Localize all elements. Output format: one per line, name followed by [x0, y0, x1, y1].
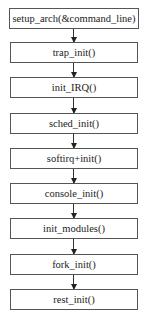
node-softirq-init: softirq+init()	[10, 148, 138, 169]
node-rest-init: rest_init()	[10, 289, 138, 310]
node-console-init: console_init()	[10, 183, 138, 204]
node-label: sched_init()	[49, 118, 99, 129]
node-label: console_init()	[45, 188, 103, 199]
node-label: trap_init()	[53, 47, 96, 58]
node-label: init_IRQ()	[52, 82, 96, 93]
arrow-down-icon	[73, 204, 74, 218]
node-trap-init: trap_init()	[10, 42, 138, 63]
node-label: setup_arch(&command_line)	[12, 13, 135, 24]
arrow-down-icon	[73, 134, 74, 148]
arrow-down-icon	[73, 169, 74, 183]
arrow-down-icon	[73, 275, 74, 289]
node-label: rest_init()	[53, 294, 94, 305]
node-init-modules: init_modules()	[10, 218, 138, 239]
node-setup-arch: setup_arch(&command_line)	[9, 8, 139, 29]
arrow-down-icon	[73, 98, 74, 113]
node-label: softirq+init()	[47, 153, 101, 164]
kernel-init-flowchart: setup_arch(&command_line) trap_init() in…	[0, 0, 144, 323]
node-fork-init: fork_init()	[10, 254, 138, 275]
node-sched-init: sched_init()	[10, 113, 138, 134]
arrow-down-icon	[73, 29, 74, 42]
node-label: fork_init()	[52, 259, 96, 270]
node-init-irq: init_IRQ()	[10, 77, 138, 98]
arrow-down-icon	[73, 239, 74, 254]
node-label: init_modules()	[43, 223, 105, 234]
arrow-down-icon	[73, 63, 74, 77]
